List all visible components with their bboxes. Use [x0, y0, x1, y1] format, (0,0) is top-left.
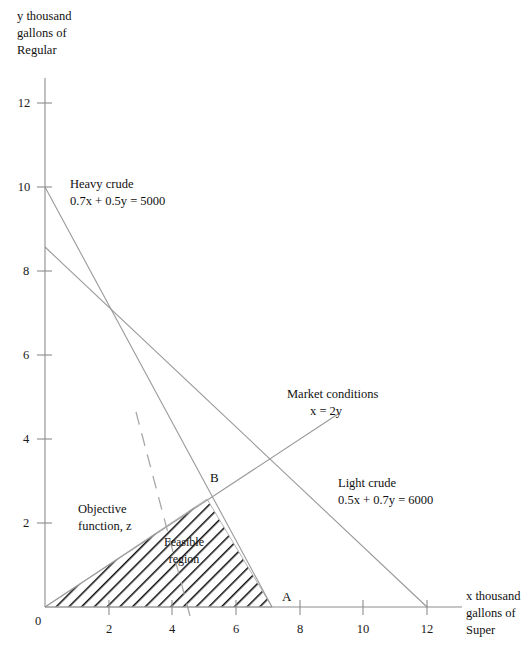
objective-function-label-line1: Objective	[78, 502, 127, 516]
x-axis-caption-line1: x thousand	[466, 589, 521, 603]
x-tick-label-10: 10	[357, 622, 370, 636]
market-conditions-label-line1: Market conditions	[287, 387, 378, 401]
y-tick-label-4: 4	[23, 432, 30, 446]
market-conditions-label-line2: x = 2y	[310, 404, 343, 418]
chart-svg: 2 4 6 8 10 12 2 4 6 8 10 12 0 y thousand…	[0, 0, 524, 650]
y-tick-label-6: 6	[23, 348, 29, 362]
heavy-crude-label-line2: 0.7x + 0.5y = 5000	[70, 194, 165, 208]
objective-function-label-line2: function, z	[78, 519, 132, 533]
linear-programming-chart: 2 4 6 8 10 12 2 4 6 8 10 12 0 y thousand…	[0, 0, 524, 650]
x-axis-caption-line2: gallons of	[466, 606, 516, 620]
vertex-label-a: A	[282, 589, 292, 604]
feasible-region-label-line1: Feasible	[164, 535, 204, 549]
y-tick-label-12: 12	[18, 96, 31, 110]
x-tick-label-8: 8	[297, 622, 303, 636]
heavy-crude-label-line1: Heavy crude	[70, 177, 134, 191]
y-axis-caption-line2: gallons of	[17, 26, 67, 40]
light-crude-label-line1: Light crude	[338, 476, 396, 490]
x-tick-label-12: 12	[421, 622, 434, 636]
x-tick-label-4: 4	[169, 622, 176, 636]
origin-label: 0	[35, 614, 41, 628]
x-tick-label-2: 2	[106, 622, 112, 636]
y-tick-label-10: 10	[18, 180, 31, 194]
y-tick-label-2: 2	[23, 516, 29, 530]
y-tick-label-8: 8	[23, 264, 29, 278]
vertex-label-b: B	[210, 470, 219, 485]
feasible-region-label-line2: region	[169, 552, 200, 566]
x-tick-label-6: 6	[233, 622, 239, 636]
light-crude-label-line2: 0.5x + 0.7y = 6000	[338, 493, 433, 507]
y-axis-caption-line3: Regular	[17, 43, 57, 57]
y-axis-caption-line1: y thousand	[17, 9, 72, 23]
x-axis-caption-line3: Super	[466, 623, 496, 637]
